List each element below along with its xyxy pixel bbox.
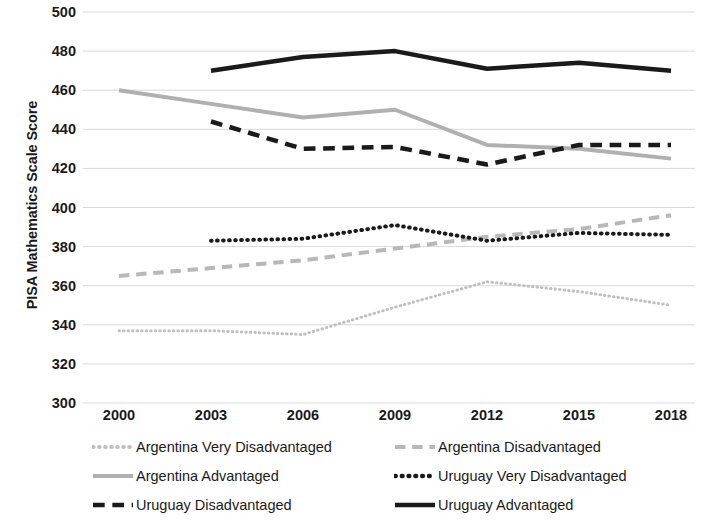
legend-label: Uruguay Advantaged [438,497,573,513]
pisa-math-score-line-chart: PISA Mathematics Scale Score 50048046044… [0,0,704,523]
legend-item[interactable]: Argentina Very Disadvantaged [92,434,332,460]
legend-item[interactable]: Argentina Advantaged [92,463,279,489]
series-line-argentina-advantaged [119,90,671,158]
legend-label: Uruguay Very Disadvantaged [438,468,627,484]
legend-swatch-icon [92,498,134,512]
legend-swatch-icon [394,469,436,483]
legend-label: Argentina Advantaged [136,468,279,484]
legend-swatch-icon [394,498,436,512]
legend-label: Argentina Disadvantaged [438,439,601,455]
legend-item[interactable]: Argentina Disadvantaged [394,434,601,460]
series-line-uruguay-advantaged [211,51,671,71]
series-line-argentina-disadvantaged [119,215,671,276]
legend-swatch-icon [394,440,436,454]
legend-swatch-icon [92,440,134,454]
legend-swatch-icon [92,469,134,483]
legend-item[interactable]: Uruguay Very Disadvantaged [394,463,627,489]
legend-item[interactable]: Uruguay Disadvantaged [92,492,292,518]
legend-label: Uruguay Disadvantaged [136,497,292,513]
legend-item[interactable]: Uruguay Advantaged [394,492,573,518]
chart-legend: Argentina Very DisadvantagedArgentina Di… [92,434,692,520]
series-line-argentina-very-disadvantaged [119,282,671,335]
legend-label: Argentina Very Disadvantaged [136,439,332,455]
